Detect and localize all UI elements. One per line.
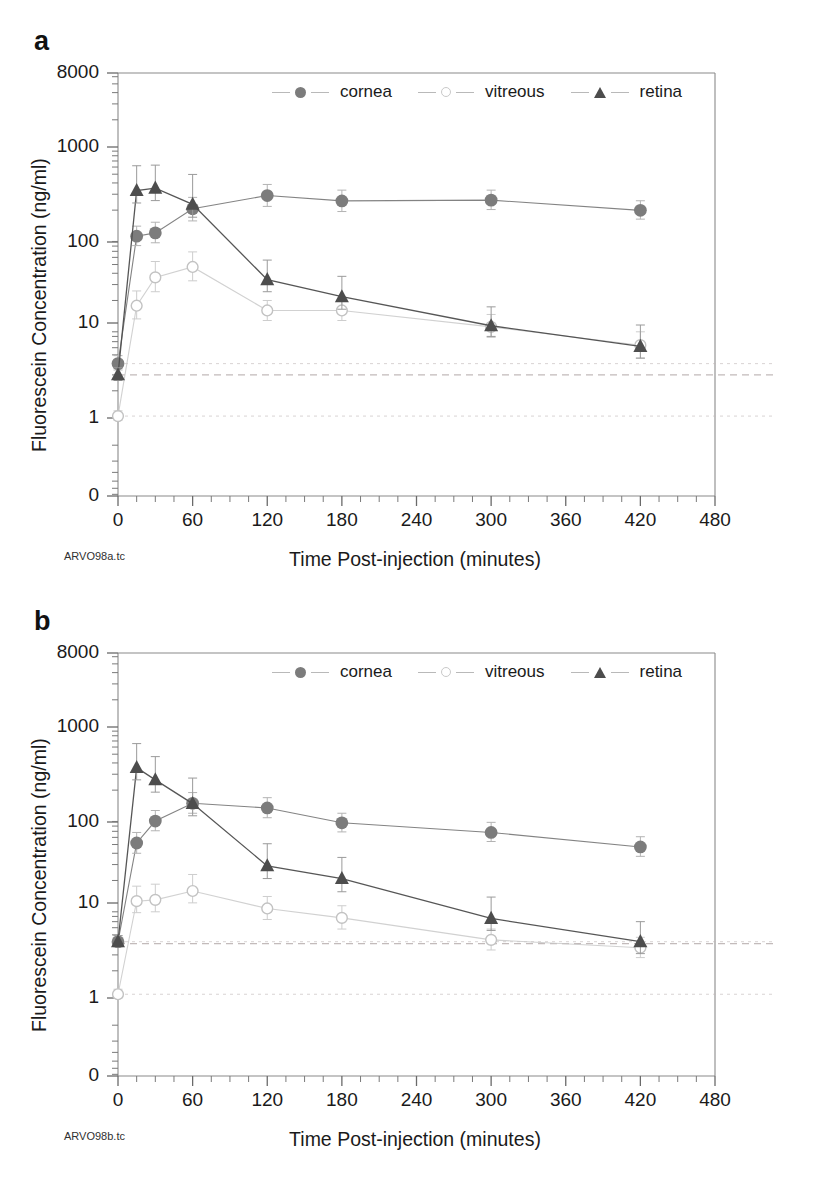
data-point-cornea (149, 815, 162, 828)
y-tick-label: 1000 (30, 715, 99, 737)
data-point-vitreous (113, 411, 124, 422)
series-retina (111, 744, 647, 954)
x-tick-label: 60 (163, 1089, 223, 1111)
data-point-cornea (130, 837, 143, 850)
data-point-vitreous (262, 305, 273, 316)
data-point-vitreous (336, 913, 347, 924)
x-tick-label: 420 (610, 509, 670, 531)
reference-lines (118, 364, 775, 416)
x-tick-label: 240 (387, 509, 447, 531)
panel-b-plot (0, 580, 817, 1168)
data-point-retina (111, 367, 125, 380)
x-axis-ticks (118, 496, 715, 506)
data-point-retina (148, 772, 162, 785)
data-point-retina (148, 181, 162, 194)
y-tick-label: 10 (30, 311, 99, 333)
x-tick-label: 420 (610, 1089, 670, 1111)
x-tick-label: 300 (461, 1089, 521, 1111)
y-tick-label: 1000 (30, 135, 99, 157)
y-tick-label: 1 (30, 406, 99, 428)
data-point-vitreous (150, 272, 161, 283)
x-tick-label: 300 (461, 509, 521, 531)
data-point-cornea (335, 816, 348, 829)
data-point-vitreous (262, 903, 273, 914)
data-point-vitreous (486, 934, 497, 945)
reference-lines (118, 942, 775, 995)
x-tick-label: 480 (685, 509, 745, 531)
x-tick-label: 480 (685, 1089, 745, 1111)
y-tick-label: 100 (30, 810, 99, 832)
y-axis-ticks (107, 653, 118, 1076)
panel-b: b Fluorescein Concentration (ng/ml) Time… (0, 580, 817, 1168)
data-point-cornea (634, 841, 647, 854)
figure-container: a Fluorescein Concentration (ng/ml) Time… (0, 0, 817, 1177)
x-axis-ticks (118, 1076, 715, 1086)
data-point-cornea (261, 802, 274, 815)
series-vitreous (113, 874, 646, 999)
x-tick-label: 0 (88, 509, 148, 531)
x-tick-label: 120 (237, 509, 297, 531)
x-tick-label: 180 (312, 1089, 372, 1111)
y-tick-label: 10 (30, 891, 99, 913)
data-point-cornea (485, 826, 498, 839)
x-tick-label: 0 (88, 1089, 148, 1111)
y-tick-label: 1 (30, 986, 99, 1008)
y-tick-label: 0 (30, 484, 99, 506)
data-point-vitreous (113, 989, 124, 1000)
y-tick-label: 8000 (30, 61, 99, 83)
data-point-vitreous (131, 896, 142, 907)
data-point-cornea (335, 195, 348, 208)
panel-a: a Fluorescein Concentration (ng/ml) Time… (0, 0, 817, 588)
data-point-cornea (634, 204, 647, 217)
y-axis-ticks (107, 73, 118, 496)
panel-a-plot (0, 0, 817, 588)
data-point-vitreous (131, 300, 142, 311)
x-tick-label: 120 (237, 1089, 297, 1111)
y-tick-label: 0 (30, 1064, 99, 1086)
series-cornea (112, 184, 647, 370)
plot-frame (118, 73, 715, 496)
data-point-vitreous (187, 262, 198, 273)
y-tick-label: 8000 (30, 641, 99, 663)
data-point-vitreous (187, 886, 198, 897)
data-point-vitreous (150, 894, 161, 905)
x-tick-label: 360 (536, 1089, 596, 1111)
data-point-cornea (261, 189, 274, 202)
x-tick-label: 180 (312, 509, 372, 531)
data-point-cornea (149, 226, 162, 239)
data-point-retina (260, 858, 274, 871)
data-point-retina (186, 197, 200, 210)
plot-frame (118, 653, 715, 1076)
data-point-cornea (485, 194, 498, 207)
x-tick-label: 240 (387, 1089, 447, 1111)
data-point-retina (130, 760, 144, 773)
x-tick-label: 60 (163, 509, 223, 531)
x-tick-label: 360 (536, 509, 596, 531)
y-tick-label: 100 (30, 230, 99, 252)
